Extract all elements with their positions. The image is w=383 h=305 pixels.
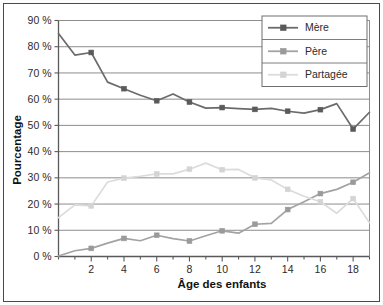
series-marker (351, 180, 356, 185)
x-axis-tick-labels: 24681012141618 (88, 263, 359, 275)
y-tick-label: 0 % (33, 250, 51, 262)
y-tick-label: 30 % (28, 171, 52, 183)
x-axis-ticks (59, 257, 370, 262)
x-axis-title: Âge des enfants (178, 278, 267, 290)
series-marker (318, 199, 323, 204)
x-tick-label: 14 (282, 263, 294, 275)
series-marker (220, 167, 225, 172)
series-marker (187, 100, 192, 105)
y-tick-label: 80 % (28, 40, 52, 52)
series-marker (318, 107, 323, 112)
series-marker (285, 109, 290, 114)
y-tick-label: 60 % (28, 93, 52, 105)
legend-label: Père (305, 45, 327, 57)
series-marker (253, 222, 258, 227)
legend-swatch-marker (281, 25, 287, 31)
y-axis-title: Pourcentage (11, 115, 23, 185)
series-marker (253, 175, 258, 180)
series-marker (285, 207, 290, 212)
series-marker (351, 127, 356, 132)
chart-figure: 0 %10 %20 %30 %40 %50 %60 %70 %80 %90 % … (0, 0, 383, 305)
series-marker (122, 176, 127, 181)
legend-label: Mère (305, 21, 329, 33)
series-marker (89, 50, 94, 55)
legend-swatch-marker (281, 72, 287, 78)
series-marker (285, 187, 290, 192)
y-tick-label: 50 % (28, 119, 52, 131)
x-tick-label: 10 (216, 263, 228, 275)
series-marker (351, 196, 356, 201)
legend-swatch-marker (281, 48, 287, 54)
x-tick-label: 4 (121, 263, 127, 275)
y-tick-label: 90 % (28, 14, 52, 26)
legend-label: Partagée (305, 68, 348, 80)
x-tick-label: 16 (315, 263, 327, 275)
x-tick-label: 18 (347, 263, 359, 275)
series-marker (187, 239, 192, 244)
chart-legend: MèrePèrePartagée (262, 16, 367, 87)
series-marker (154, 233, 159, 238)
series-marker (318, 191, 323, 196)
y-tick-label: 70 % (28, 67, 52, 79)
series-marker (220, 105, 225, 110)
x-tick-label: 12 (249, 263, 261, 275)
y-axis-tick-labels: 0 %10 %20 %30 %40 %50 %60 %70 %80 %90 % (28, 14, 59, 262)
y-tick-label: 40 % (28, 145, 52, 157)
series-marker (253, 107, 258, 112)
series-marker (89, 246, 94, 251)
series-marker (154, 172, 159, 177)
series-marker (122, 86, 127, 91)
x-tick-label: 6 (154, 263, 160, 275)
x-tick-label: 2 (88, 263, 94, 275)
chart-canvas: 0 %10 %20 %30 %40 %50 %60 %70 %80 %90 % … (0, 0, 383, 305)
series-marker (220, 228, 225, 233)
y-tick-label: 10 % (28, 224, 52, 236)
series-marker (154, 98, 159, 103)
series-marker (89, 203, 94, 208)
x-tick-label: 8 (187, 263, 193, 275)
series-marker (122, 236, 127, 241)
y-tick-label: 20 % (28, 198, 52, 210)
series-marker (187, 167, 192, 172)
